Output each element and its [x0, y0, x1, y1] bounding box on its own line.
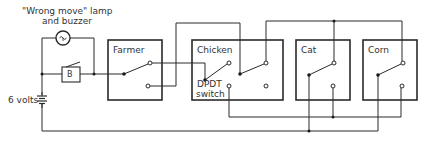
title-line-2: and buzzer [22, 16, 112, 26]
chicken-label: Chicken [197, 45, 233, 55]
farmer-switch-blade [124, 64, 148, 74]
bottom-wire-lower [229, 88, 401, 117]
lamp-buzzer-title: "Wrong move" lamp and buzzer [22, 6, 112, 26]
title-line-1: "Wrong move" lamp [22, 6, 112, 16]
corn-label: Corn [368, 45, 389, 55]
dpdt-label: DPDT [197, 79, 222, 89]
cat-switch-blade [309, 64, 332, 75]
cat-label: Cat [301, 45, 316, 55]
switch-label: switch [196, 89, 225, 99]
corn-switch-blade [378, 64, 401, 75]
chicken-switch-blade-1 [205, 64, 227, 80]
battery-label: 6 volts [8, 95, 38, 105]
farmer-to-chicken-wire [152, 63, 205, 80]
farmer-label: Farmer [113, 45, 144, 55]
buzzer-label: B [67, 70, 73, 80]
chicken-switch-blade-2 [240, 64, 264, 74]
